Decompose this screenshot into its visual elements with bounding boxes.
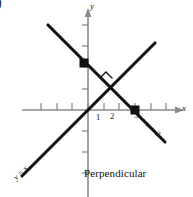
y-axis-ticks bbox=[82, 25, 88, 173]
figure-part-mark: ) bbox=[0, 0, 2, 10]
x-axis-label: x bbox=[182, 104, 186, 113]
x-axis-ticks bbox=[41, 103, 166, 110]
perpendicular-lines-figure: ) y x 1 2 y = x y + x = 3 Perpendicular bbox=[0, 0, 193, 197]
figure-caption: Perpendicular bbox=[84, 168, 146, 179]
x-tick-label-2: 2 bbox=[110, 112, 114, 121]
y-axis-label: y bbox=[90, 2, 94, 11]
x-axis bbox=[22, 107, 184, 114]
point-marker-y-intercept bbox=[80, 59, 89, 68]
x-tick-label-1: 1 bbox=[96, 113, 100, 122]
